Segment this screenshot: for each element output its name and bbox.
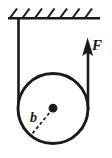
hatch-mark xyxy=(23,9,30,19)
pulley-diagram-svg: F b xyxy=(0,0,112,158)
pulley-center-dot xyxy=(49,104,58,113)
hatch-mark xyxy=(60,9,67,19)
hatch-mark xyxy=(35,9,42,19)
radius-label-b: b xyxy=(30,110,37,125)
ceiling-hatching-group xyxy=(10,9,92,19)
physics-figure-canvas: F b xyxy=(0,0,112,158)
hatch-mark xyxy=(48,9,55,19)
hatch-mark xyxy=(85,9,92,19)
hatch-mark xyxy=(73,9,80,19)
hatch-mark xyxy=(10,9,17,19)
force-label-F: F xyxy=(91,37,102,53)
